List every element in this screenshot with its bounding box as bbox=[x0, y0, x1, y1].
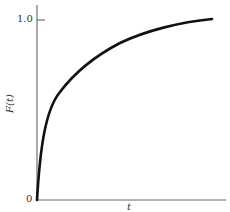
data-curve bbox=[37, 19, 212, 200]
y-tick-label-zero: 0 bbox=[26, 193, 32, 204]
x-axis-label: t bbox=[127, 201, 131, 212]
chart: 1.0 0 t F(t) bbox=[0, 0, 230, 212]
y-tick-label-top: 1.0 bbox=[17, 13, 33, 24]
y-axis-label: F(t) bbox=[4, 94, 15, 113]
plot-area bbox=[0, 0, 230, 212]
